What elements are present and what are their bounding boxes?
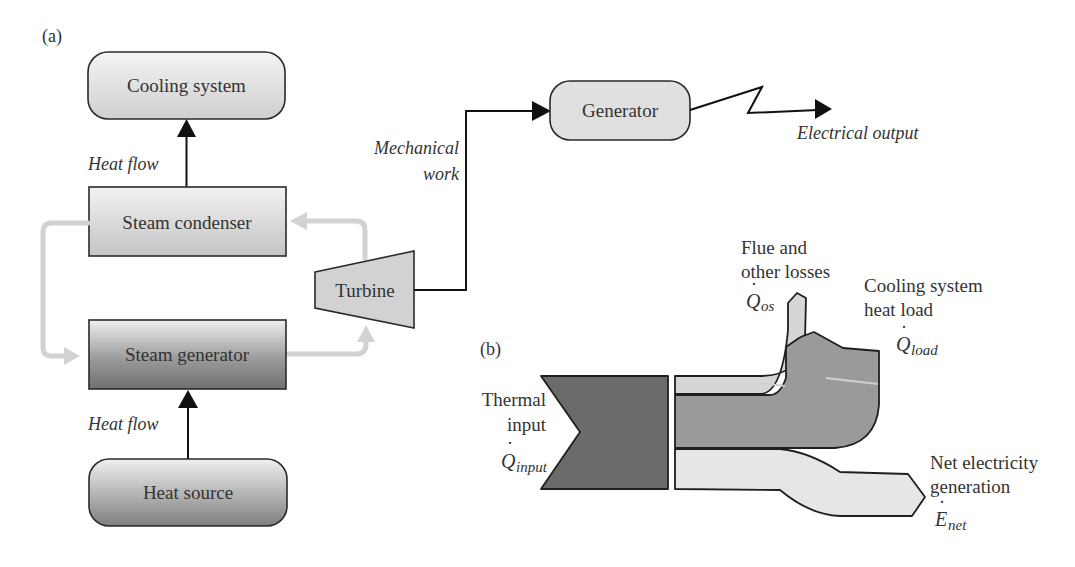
svg-text:Q: Q — [501, 450, 516, 472]
heat-flow-arrow-top — [177, 119, 196, 188]
heat-flow-label-top: Heat flow — [87, 154, 159, 174]
net-electricity-symbol: E · net — [934, 492, 967, 533]
svg-text:os: os — [761, 298, 775, 314]
cooling-load-symbol: Q · load — [896, 317, 938, 358]
mechanical-work-arrow — [414, 101, 551, 290]
cooling-system-node: Cooling system — [88, 52, 285, 119]
heat-flow-arrow-bottom — [178, 390, 198, 460]
svg-text:net: net — [948, 517, 967, 533]
svg-text:·: · — [901, 317, 907, 337]
steam-generator-node: Steam generator — [89, 320, 286, 389]
svg-text:·: · — [507, 433, 513, 453]
heat-flow-label-bottom: Heat flow — [87, 414, 159, 434]
heat-source-node: Heat source — [89, 459, 287, 526]
mechanical-work-label-line1: Mechanical — [373, 138, 459, 158]
cooling-load-label-line1: Cooling system — [864, 275, 983, 296]
svg-text:·: · — [751, 274, 757, 294]
thermal-input-block — [541, 376, 668, 489]
thermal-input-label-line2: input — [507, 414, 547, 435]
cooling-system-label: Cooling system — [127, 75, 246, 96]
cooling-load-label-line2: heat load — [864, 299, 934, 320]
heat-source-label: Heat source — [143, 482, 233, 503]
steam-generator-label: Steam generator — [125, 344, 250, 365]
generator-node: Generator — [550, 81, 690, 140]
thermal-input-symbol: Q · input — [501, 433, 548, 475]
panel-a-label: (a) — [42, 26, 62, 47]
svg-text:input: input — [516, 459, 548, 475]
svg-text:·: · — [939, 492, 945, 512]
thermal-input-label-line1: Thermal — [482, 389, 546, 410]
power-plant-figure: (a) Cooling system Heat flow Steam conde… — [0, 0, 1075, 567]
flue-losses-label-line1: Flue and — [741, 237, 807, 258]
generator-label: Generator — [582, 100, 659, 121]
turbine-label: Turbine — [335, 280, 394, 301]
panel-b-label: (b) — [480, 339, 501, 360]
svg-text:load: load — [911, 342, 938, 358]
turbine-node: Turbine — [315, 251, 414, 328]
mechanical-work-label-line2: work — [423, 164, 460, 184]
electrical-output-label: Electrical output — [796, 123, 919, 143]
steam-condenser-label: Steam condenser — [122, 212, 252, 233]
electrical-output-arrow — [690, 87, 832, 119]
net-electricity-label-line1: Net electricity — [930, 452, 1039, 473]
net-electricity-stream — [675, 449, 925, 516]
steam-condenser-node: Steam condenser — [89, 187, 286, 256]
